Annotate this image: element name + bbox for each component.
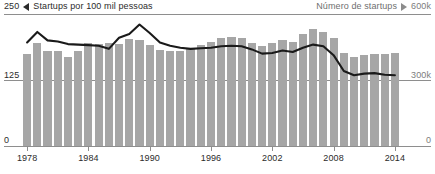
triangle-left-icon <box>23 3 29 11</box>
x-tick-mark <box>150 146 151 151</box>
x-tick-label: 1996 <box>201 153 221 163</box>
x-tick-mark <box>211 146 212 151</box>
x-axis: 1978198419901996200220082014 <box>0 146 435 174</box>
right-axis-max-label: 600k <box>411 0 431 13</box>
triangle-right-icon <box>401 3 407 11</box>
chart-legend-header: 250 Startups por 100 mil pessoas Número … <box>0 0 435 14</box>
chart-root: 250 Startups por 100 mil pessoas Número … <box>0 0 435 174</box>
right-axis-mid-label: 300k <box>411 70 431 80</box>
x-tick-mark <box>334 146 335 151</box>
x-tick-mark <box>272 146 273 151</box>
x-tick-mark <box>395 146 396 151</box>
left-axis-min-label: 0 <box>4 135 9 145</box>
legend-left-group: 250 Startups por 100 mil pessoas <box>4 0 153 13</box>
legend-right-group: Número de startups 600k <box>316 0 431 13</box>
x-tick-label: 1978 <box>17 153 37 163</box>
x-tick-mark <box>27 146 28 151</box>
x-tick-mark <box>88 146 89 151</box>
x-tick-label: 2014 <box>385 153 405 163</box>
right-axis-min-label: 0 <box>426 135 431 145</box>
x-tick-label: 2002 <box>262 153 282 163</box>
line-series-path <box>27 25 395 76</box>
left-axis-max-label: 250 <box>4 0 19 13</box>
x-tick-label: 2008 <box>323 153 343 163</box>
line-series-layer <box>22 14 400 146</box>
left-axis-mid-label: 125 <box>4 70 19 80</box>
right-series-label: Número de startups <box>316 0 397 13</box>
left-series-label: Startups por 100 mil pessoas <box>33 0 152 13</box>
x-tick-label: 1990 <box>139 153 159 163</box>
x-tick-label: 1984 <box>78 153 98 163</box>
